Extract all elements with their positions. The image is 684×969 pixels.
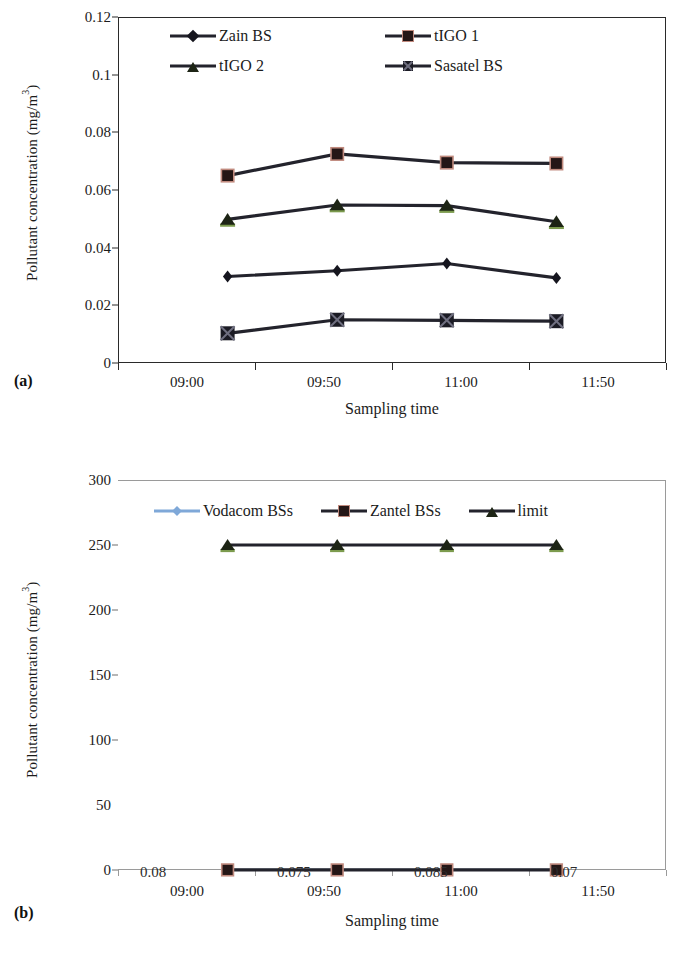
panel-b-x-label-2: 11:00	[444, 883, 478, 900]
series-line-tigo-2	[228, 205, 557, 222]
panel-b-series-layer	[118, 480, 666, 870]
panel-b-x-label-3: 11:50	[581, 883, 615, 900]
panel-a-y-axis-title-exponent: 3	[20, 90, 31, 95]
data-point-zain-bs-2	[442, 258, 451, 270]
panel-a-tag: (a)	[14, 372, 33, 390]
panel-a-x-tick-3	[529, 363, 530, 370]
data-point-tigo-1-1	[330, 147, 344, 161]
panel-b-data-label-0: 0.08	[140, 864, 166, 881]
data-point-zantel-bss-1	[331, 863, 344, 876]
data-point-tigo-1-2	[440, 156, 454, 170]
data-point-sasatel-bs-3	[549, 314, 563, 328]
panel-a-x-tick-1	[255, 363, 256, 370]
panel-b-data-label-1: 0.075	[277, 864, 311, 881]
panel-a-plot-area: 0 0.02 0.04 0.06 0.08 0.1	[118, 17, 666, 363]
data-point-zain-bs-1	[333, 265, 342, 277]
data-point-tigo-1-0	[221, 169, 235, 183]
panel-a-x-label-0: 09:00	[170, 374, 204, 391]
panel-b-x-tick-0	[118, 870, 119, 876]
panel-a-y-axis-title: Pollutant concentration (mg/m3)	[20, 18, 40, 348]
series-line-zain-bs	[228, 264, 557, 278]
panel-b-plot-area: 0 50 100 150 200 250 300	[118, 480, 666, 870]
series-line-tigo-1	[228, 154, 557, 176]
data-point-zantel-bss-0	[221, 863, 234, 876]
panel-a-x-tick-4	[666, 363, 667, 370]
data-point-sasatel-bs-0	[221, 326, 235, 340]
panel-b-x-tick-4	[666, 870, 667, 876]
panel-b-tag: (b)	[14, 904, 34, 922]
data-point-zain-bs-0	[223, 271, 232, 283]
panel-a-x-label-1: 09:50	[307, 374, 341, 391]
data-point-sasatel-bs-2	[440, 313, 454, 327]
panel-a-y-axis-title-text: Pollutant concentration (mg/m	[24, 95, 40, 281]
panel-a-x-label-2: 11:00	[444, 374, 478, 391]
panel-a-x-tick-2	[392, 363, 393, 370]
panel-a-y-axis-title-tail: )	[24, 85, 40, 90]
panel-b-y-axis-title-text: Pollutant concentration (mg/m	[24, 592, 40, 778]
data-point-sasatel-bs-1	[330, 313, 344, 327]
panel-a-x-tick-0	[118, 363, 119, 370]
panel-a-x-label-3: 11:50	[581, 374, 615, 391]
data-point-tigo-1-3	[549, 156, 563, 170]
data-point-zain-bs-3	[552, 272, 561, 284]
panel-b-y-axis-title: Pollutant concentration (mg/m3)	[20, 500, 40, 860]
panel-b-data-label-3: 0.07	[551, 864, 577, 881]
panel-b-x-axis-title: Sampling time	[118, 912, 666, 930]
panel-a-x-axis-title: Sampling time	[118, 400, 666, 418]
panel-b-x-label-0: 09:00	[170, 883, 204, 900]
panel-a: Pollutant concentration (mg/m3) 0 0.02 0…	[0, 0, 684, 460]
figure-two-panel-line-charts: Pollutant concentration (mg/m3) 0 0.02 0…	[0, 0, 684, 969]
panel-b-y-axis-title-exponent: 3	[20, 587, 31, 592]
panel-b-data-label-2: 0.085	[414, 864, 448, 881]
panel-b-x-label-1: 09:50	[307, 883, 341, 900]
panel-b: Pollutant concentration (mg/m3) 0 50 100…	[0, 460, 684, 969]
panel-b-y-axis-title-tail: )	[24, 582, 40, 587]
series-line-sasatel-bs	[228, 320, 557, 334]
panel-a-series-layer	[118, 17, 666, 363]
